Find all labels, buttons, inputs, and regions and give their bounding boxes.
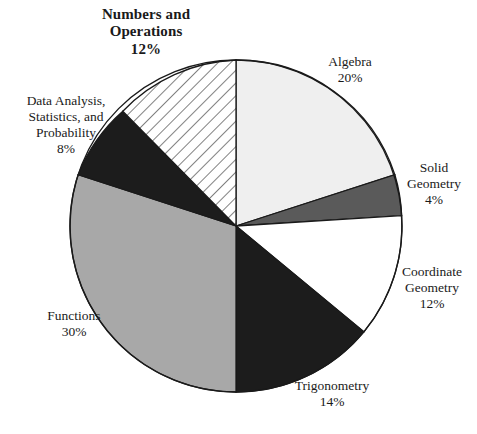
slice-label-trigonometry: Trigonometry 14%	[278, 378, 386, 410]
slice-label-solid-geometry-line2: Geometry	[392, 176, 476, 192]
slice-value-solid-geometry: 4%	[392, 192, 476, 208]
slice-label-numbers-operations-line1: Numbers and	[66, 6, 226, 23]
slice-label-trigonometry-text: Trigonometry	[278, 378, 386, 394]
slice-value-algebra: 20%	[300, 70, 400, 86]
slice-label-numbers-operations: Numbers and Operations 12%	[66, 6, 226, 58]
slice-value-numbers-operations: 12%	[66, 41, 226, 58]
pie-chart-canvas	[0, 0, 477, 434]
slice-label-data-analysis-line2: Statistics, and	[4, 109, 128, 125]
slice-label-algebra: Algebra 20%	[300, 54, 400, 86]
slice-label-coordinate-geometry: Coordinate Geometry 12%	[388, 264, 476, 312]
slice-value-trigonometry: 14%	[278, 394, 386, 410]
slice-label-functions: Functions 30%	[22, 308, 126, 340]
slice-label-functions-text: Functions	[22, 308, 126, 324]
slice-label-data-analysis: Data Analysis, Statistics, and Probabili…	[4, 93, 128, 157]
slice-label-coordinate-geometry-line2: Geometry	[388, 280, 476, 296]
slice-value-data-analysis: 8%	[4, 141, 128, 157]
slice-label-data-analysis-line1: Data Analysis,	[4, 93, 128, 109]
slice-value-functions: 30%	[22, 324, 126, 340]
slice-label-algebra-text: Algebra	[300, 54, 400, 70]
slice-label-solid-geometry-line1: Solid	[392, 160, 476, 176]
pie-chart-figure: Numbers and Operations 12% Algebra 20% S…	[0, 0, 477, 434]
slice-label-data-analysis-line3: Probability	[4, 125, 128, 141]
slice-label-coordinate-geometry-line1: Coordinate	[388, 264, 476, 280]
slice-label-solid-geometry: Solid Geometry 4%	[392, 160, 476, 208]
slice-label-numbers-operations-line2: Operations	[66, 23, 226, 40]
slice-value-coordinate-geometry: 12%	[388, 296, 476, 312]
